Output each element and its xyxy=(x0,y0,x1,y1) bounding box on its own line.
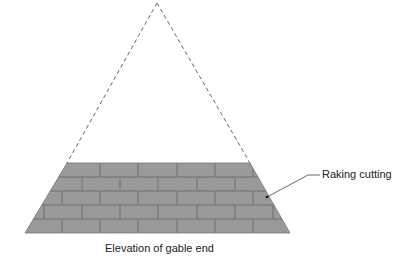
brick-wall xyxy=(20,163,300,233)
raking-cutting-label: Raking cutting xyxy=(322,168,392,180)
gable-right-dashed-line xyxy=(157,3,250,163)
leader-dot xyxy=(266,196,269,199)
gable-left-dashed-line xyxy=(67,3,157,163)
raking-cutting-leader xyxy=(267,175,320,197)
diagram-caption: Elevation of gable end xyxy=(105,242,214,254)
gable-elevation-drawing xyxy=(0,0,402,268)
